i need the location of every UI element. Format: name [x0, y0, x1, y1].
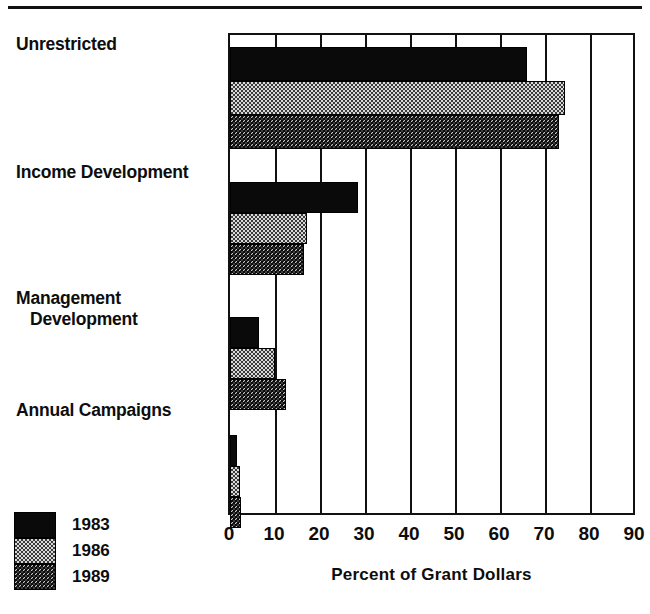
- category-label-line: Development: [16, 309, 218, 330]
- bar-unrestricted-1983: [230, 47, 527, 81]
- dark-checker-swatch: [14, 564, 56, 590]
- solid-black-swatch: [14, 512, 56, 538]
- category-label-management-development: ManagementDevelopment: [0, 288, 218, 330]
- legend-item-1989: 1989: [14, 564, 194, 590]
- plot-area: [228, 33, 635, 515]
- light-checker-swatch: [14, 538, 56, 564]
- x-tick-label-70: 70: [519, 523, 569, 545]
- category-label-line: Unrestricted: [16, 34, 117, 54]
- x-tick-label-30: 30: [339, 523, 389, 545]
- category-label-unrestricted: Unrestricted: [0, 34, 218, 55]
- x-tick-label-0: 0: [204, 523, 254, 545]
- bar-income-development-1983: [230, 182, 358, 213]
- gridline-80: [590, 35, 592, 513]
- x-tick-label-20: 20: [294, 523, 344, 545]
- x-tick-label-60: 60: [474, 523, 524, 545]
- x-tick-label-40: 40: [384, 523, 434, 545]
- x-tick-label-10: 10: [249, 523, 299, 545]
- bar-management-development-1986: [230, 348, 275, 379]
- x-tick-label-80: 80: [564, 523, 614, 545]
- cropped-title-text: [210, 0, 440, 5]
- bar-unrestricted-1986: [230, 81, 565, 115]
- chart-legend: 198319861989: [14, 512, 194, 590]
- category-label-annual-campaigns: Annual Campaigns: [0, 400, 218, 421]
- bar-management-development-1989: [230, 379, 286, 410]
- title-rule: [8, 6, 642, 9]
- x-tick-label-50: 50: [429, 523, 479, 545]
- category-label-line: Management: [16, 288, 121, 308]
- x-tick-label-90: 90: [609, 523, 650, 545]
- category-label-income-development: Income Development: [0, 162, 218, 183]
- category-label-line: Income Development: [16, 162, 188, 182]
- bar-annual-campaigns-1983: [230, 435, 237, 466]
- legend-label: 1986: [72, 541, 110, 561]
- legend-item-1983: 1983: [14, 512, 194, 538]
- legend-item-1986: 1986: [14, 538, 194, 564]
- x-axis-title: Percent of Grant Dollars: [228, 565, 635, 585]
- bar-management-development-1983: [230, 317, 259, 348]
- bar-unrestricted-1989: [230, 115, 559, 149]
- legend-label: 1989: [72, 567, 110, 587]
- bar-annual-campaigns-1986: [230, 466, 240, 497]
- bar-income-development-1989: [230, 244, 304, 275]
- category-label-line: Annual Campaigns: [16, 400, 171, 420]
- legend-label: 1983: [72, 515, 110, 535]
- bar-income-development-1986: [230, 213, 307, 244]
